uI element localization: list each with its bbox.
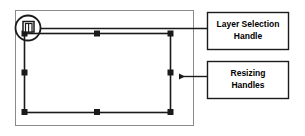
callout-label-resizing-handles-line2: Handles xyxy=(231,80,264,90)
handle-bottom-left[interactable] xyxy=(22,109,28,115)
handle-middle-left[interactable] xyxy=(22,70,28,76)
callout-label-layer-selection-handle-line1: Layer Selection xyxy=(217,19,280,29)
callout-layer-selection-handle: Layer Selection Handle xyxy=(208,13,289,50)
callout-label-resizing-handles-line1: Resizing xyxy=(231,68,266,78)
callout-label-layer-selection-handle-line2: Handle xyxy=(234,31,263,41)
handle-top-right[interactable] xyxy=(168,31,174,37)
stacked-layers-icon xyxy=(23,22,34,33)
handle-bottom-right[interactable] xyxy=(168,109,174,115)
handle-top-center[interactable] xyxy=(94,31,100,37)
diagram-stage: Layer Selection Handle Resizing Handles xyxy=(0,0,305,136)
handle-bottom-center[interactable] xyxy=(94,109,100,115)
layer-selection-diagram: Layer Selection Handle Resizing Handles xyxy=(0,0,305,136)
handle-middle-right[interactable] xyxy=(168,70,174,76)
